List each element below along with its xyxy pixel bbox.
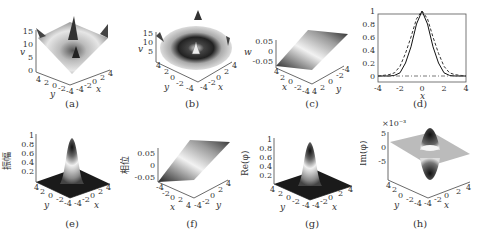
svg-text:0: 0 xyxy=(216,73,221,82)
svg-text:x: x xyxy=(332,202,337,212)
svg-text:15: 15 xyxy=(23,27,33,36)
caption-c: (c) xyxy=(292,98,332,109)
svg-text:x: x xyxy=(218,82,223,92)
svg-text:x: x xyxy=(94,200,99,210)
surface-plot-g: 1 0.8 0.6 0.4 0.2 Re(φ) 4 2 0 -2 -4 y -4… xyxy=(240,118,360,218)
svg-text:4: 4 xyxy=(226,179,231,188)
svg-text:4: 4 xyxy=(386,181,391,190)
svg-text:2: 2 xyxy=(178,195,183,204)
svg-text:-4: -4 xyxy=(186,84,194,93)
svg-text:w: w xyxy=(244,47,252,57)
svg-text:0: 0 xyxy=(381,143,386,152)
svg-text:x: x xyxy=(444,200,449,210)
svg-text:-2: -2 xyxy=(292,197,300,206)
svg-text:x: x xyxy=(96,84,101,94)
svg-text:-2: -2 xyxy=(162,189,170,198)
svg-text:2: 2 xyxy=(224,67,229,76)
svg-text:-2: -2 xyxy=(320,197,328,206)
surface-plot-e: 1 0.8 0.6 0.4 0.2 振幅 4 2 0 -2 -4 y -4 -2… xyxy=(0,118,120,218)
svg-text:-5: -5 xyxy=(378,157,386,166)
surface-plot-f: 0.05 0 -0.05 相位 -4 -2 0 2 4 x -4 -2 0 2 … xyxy=(120,118,240,218)
svg-text:2: 2 xyxy=(100,73,105,82)
svg-text:-2: -2 xyxy=(434,195,442,204)
svg-text:0: 0 xyxy=(170,193,175,202)
svg-text:振幅: 振幅 xyxy=(1,152,12,170)
svg-text:4: 4 xyxy=(36,75,41,84)
svg-text:0.2: 0.2 xyxy=(21,167,34,176)
caption-g: (g) xyxy=(292,218,332,229)
svg-text:-4: -4 xyxy=(200,83,208,92)
svg-text:4: 4 xyxy=(34,183,39,192)
caption-b: (b) xyxy=(172,98,212,109)
svg-text:0.4: 0.4 xyxy=(362,46,375,55)
svg-text:4: 4 xyxy=(270,185,275,194)
svg-text:-4: -4 xyxy=(424,199,432,208)
surface-plot-a: 15 10 5 0 v 4 2 0 -2 -4 y -4 -2 0 2 4 x xyxy=(0,0,120,100)
svg-text:Im(φ): Im(φ) xyxy=(360,141,368,166)
line-chart-d: 0 0.2 0.4 0.6 0.8 1 -4 -2 0 2 4 x xyxy=(360,0,481,100)
caption-h: (h) xyxy=(400,218,440,229)
svg-text:0.4: 0.4 xyxy=(259,162,272,171)
svg-text:4: 4 xyxy=(463,84,468,93)
svg-text:-2: -2 xyxy=(202,197,210,206)
panel-b: 15 10 5 v 4 2 0 -2 -4 y -4 -2 0 2 4 x (b… xyxy=(120,0,240,115)
svg-text:0: 0 xyxy=(210,191,215,200)
svg-text:4: 4 xyxy=(232,61,237,70)
svg-text:0.2: 0.2 xyxy=(362,59,375,68)
svg-text:0: 0 xyxy=(288,77,293,86)
caption-f: (f) xyxy=(172,218,212,229)
svg-text:Re(φ): Re(φ) xyxy=(240,151,250,176)
caption-e: (e) xyxy=(52,218,92,229)
svg-text:10: 10 xyxy=(143,38,153,47)
svg-text:4: 4 xyxy=(274,67,279,76)
series-dashed xyxy=(378,11,466,76)
svg-text:-2: -2 xyxy=(56,195,64,204)
svg-text:y: y xyxy=(163,82,170,92)
svg-text:2: 2 xyxy=(280,73,285,82)
svg-text:4: 4 xyxy=(156,61,161,70)
svg-text:-2: -2 xyxy=(58,84,66,93)
caption-d: (d) xyxy=(400,98,440,109)
svg-text:2: 2 xyxy=(392,185,397,194)
svg-text:y: y xyxy=(335,84,342,94)
svg-text:0: 0 xyxy=(150,161,155,170)
svg-text:0: 0 xyxy=(398,191,403,200)
svg-text:0: 0 xyxy=(48,191,53,200)
svg-text:相位: 相位 xyxy=(120,156,130,174)
svg-text:5: 5 xyxy=(28,53,33,62)
svg-text:x: x xyxy=(170,202,175,212)
svg-text:-4: -4 xyxy=(342,65,350,74)
svg-text:0.6: 0.6 xyxy=(362,33,375,42)
svg-text:1: 1 xyxy=(370,7,375,16)
svg-text:-4: -4 xyxy=(374,84,382,93)
svg-text:0.05: 0.05 xyxy=(137,149,155,158)
svg-text:-2: -2 xyxy=(294,83,302,92)
svg-text:y: y xyxy=(215,200,222,210)
svg-text:2: 2 xyxy=(338,189,343,198)
svg-text:0.6: 0.6 xyxy=(259,153,272,162)
svg-text:2: 2 xyxy=(320,83,325,92)
svg-text:2: 2 xyxy=(98,187,103,196)
svg-text:0.4: 0.4 xyxy=(21,158,34,167)
svg-text:4: 4 xyxy=(108,69,113,78)
svg-text:4: 4 xyxy=(186,201,191,210)
series-solid xyxy=(378,11,466,76)
svg-text:2: 2 xyxy=(218,185,223,194)
svg-text:0.8: 0.8 xyxy=(362,20,375,29)
svg-text:-2: -2 xyxy=(208,78,216,87)
svg-text:2: 2 xyxy=(278,189,283,198)
svg-text:-0.05: -0.05 xyxy=(252,57,273,66)
svg-text:2: 2 xyxy=(441,84,446,93)
svg-text:-2: -2 xyxy=(396,84,404,93)
panel-h: ×10⁻³ 5 0 -5 Im(φ) 4 2 0 -2 -4 y -4 -2 0… xyxy=(360,118,480,233)
svg-text:2: 2 xyxy=(456,187,461,196)
svg-text:y: y xyxy=(393,200,400,210)
panel-f: 0.05 0 -0.05 相位 -4 -2 0 2 4 x -4 -2 0 2 … xyxy=(120,118,240,233)
svg-text:y: y xyxy=(43,200,50,210)
svg-text:-0.05: -0.05 xyxy=(134,173,155,182)
svg-text:0: 0 xyxy=(286,193,291,202)
svg-text:0: 0 xyxy=(268,47,273,56)
svg-text:4: 4 xyxy=(348,185,353,194)
svg-text:0.8: 0.8 xyxy=(259,144,272,153)
svg-text:4: 4 xyxy=(312,87,317,96)
